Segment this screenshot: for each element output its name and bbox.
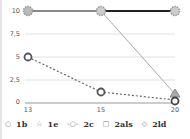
y-tick-7.5: 7,5 (10, 30, 20, 38)
legend-item-1e[interactable]: ☆ 1e (36, 117, 58, 131)
legend-label: 1e (48, 119, 59, 129)
x-tick-15: 15 (97, 106, 105, 114)
legend-item-2c[interactable]: -○- 2c (67, 117, 94, 131)
y-tick-10: 10 (12, 7, 20, 15)
y-tick-5: 5 (16, 53, 20, 61)
legend-label: 2c (83, 119, 93, 129)
y-tick-2.5: 2,5 (10, 76, 20, 84)
marker-2c-15 (98, 89, 105, 96)
marker-gear-13 (24, 7, 33, 16)
series-1e-line (101, 11, 175, 94)
diamond-icon: ◇ (142, 120, 147, 128)
star-icon: ☆ (36, 120, 42, 128)
gridlines (25, 34, 175, 80)
marker-1b-20 (172, 98, 179, 105)
legend-item-2ld[interactable]: ◇ 2ld (142, 117, 167, 131)
y-tick-0: 0 (16, 98, 20, 106)
x-tick-20: 20 (171, 106, 179, 114)
legend-label: 2als (114, 119, 132, 129)
marker-gear-15 (97, 7, 106, 16)
legend-label: 2ld (152, 119, 166, 129)
legend-label: 1b (16, 119, 27, 129)
x-tick-13: 13 (24, 106, 32, 114)
legend-item-2als[interactable]: □ 2als (103, 117, 133, 131)
marker-2c-13 (25, 54, 32, 61)
markers (24, 7, 181, 105)
circle-icon: ○ (5, 120, 11, 128)
marker-gear-20 (171, 7, 180, 16)
chart-legend: ○ 1b ☆ 1e -○- 2c □ 2als ◇ 2ld (0, 117, 190, 131)
legend-item-1b[interactable]: ○ 1b (5, 117, 27, 131)
square-icon: □ (103, 120, 110, 128)
dashed-circle-icon: -○- (67, 120, 78, 128)
